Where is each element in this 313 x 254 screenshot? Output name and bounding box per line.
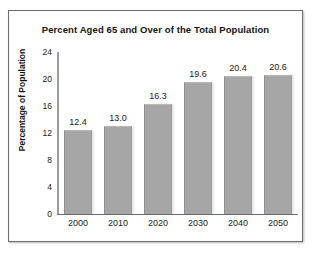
bar-series: 12.4 2000 13.0 2010 16.3 2020 19.6 2030 … <box>59 52 298 214</box>
bar-group-2010: 13.0 2010 <box>99 52 137 214</box>
bar-group-2030: 19.6 2030 <box>179 52 217 214</box>
y-tick-label: 0 <box>14 209 52 219</box>
bar[interactable] <box>184 82 212 214</box>
y-tick-label: 12 <box>14 128 52 138</box>
bar[interactable] <box>104 126 132 214</box>
x-tick-label: 2050 <box>259 218 297 228</box>
x-tick-label: 2010 <box>99 218 137 228</box>
y-tick-label: 20 <box>14 74 52 84</box>
bar[interactable] <box>64 130 92 214</box>
bar-value-label: 13.0 <box>99 113 137 123</box>
y-tick-label: 4 <box>14 182 52 192</box>
y-tick-label: 24 <box>14 47 52 57</box>
bar-group-2000: 12.4 2000 <box>59 52 97 214</box>
x-tick-label: 2040 <box>219 218 257 228</box>
bar-value-label: 20.6 <box>259 62 297 72</box>
bar[interactable] <box>224 76 252 214</box>
bar-group-2020: 16.3 2020 <box>139 52 177 214</box>
y-tick-label: 8 <box>14 155 52 165</box>
bar-value-label: 16.3 <box>139 91 177 101</box>
bar[interactable] <box>144 104 172 214</box>
bar-value-label: 19.6 <box>179 69 217 79</box>
bar-value-label: 12.4 <box>59 117 97 127</box>
x-tick-label: 2000 <box>59 218 97 228</box>
x-tick-label: 2030 <box>179 218 217 228</box>
bar-group-2050: 20.6 2050 <box>259 52 297 214</box>
bar-value-label: 20.4 <box>219 63 257 73</box>
y-tick-label: 16 <box>14 101 52 111</box>
chart-figure: Percent Aged 65 and Over of the Total Po… <box>0 0 313 254</box>
x-tick-label: 2020 <box>139 218 177 228</box>
bar-group-2040: 20.4 2040 <box>219 52 257 214</box>
bar[interactable] <box>264 75 292 214</box>
x-axis-line <box>57 214 298 215</box>
